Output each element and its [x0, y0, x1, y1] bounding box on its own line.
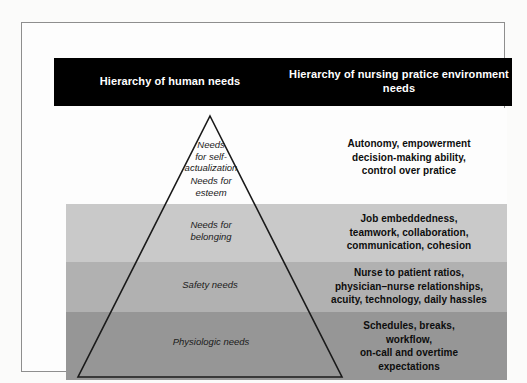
column-header-human-needs: Hierarchy of human needs: [54, 75, 286, 89]
nursing-need-text-tier-3: Nurse to patient ratios, physician–nurse…: [310, 266, 508, 307]
header-bar: Hierarchy of human needs Hierarchy of nu…: [54, 58, 512, 106]
pyramid-label-esteem: Needs for esteem: [168, 175, 254, 198]
pyramid-label-self-actualization: Needs for self- actualization: [174, 139, 248, 174]
nursing-need-text-tier-4: Schedules, breaks, workflow, on-call and…: [314, 319, 504, 373]
pyramid-label-physiologic-needs: Physiologic needs: [124, 336, 298, 348]
figure-frame: Hierarchy of human needs Hierarchy of nu…: [21, 22, 505, 372]
figure-root: Hierarchy of human needs Hierarchy of nu…: [0, 0, 527, 383]
pyramid-label-safety-needs: Safety needs: [140, 279, 280, 291]
nursing-need-text-tier-1: Autonomy, empowerment decision-making ab…: [314, 137, 504, 178]
pyramid-label-belonging: Needs for belonging: [163, 219, 259, 242]
nursing-need-text-tier-2: Job embeddedness, teamwork, collaboratio…: [314, 212, 504, 253]
column-header-nursing-needs: Hierarchy of nursing pratice environment…: [286, 68, 512, 96]
